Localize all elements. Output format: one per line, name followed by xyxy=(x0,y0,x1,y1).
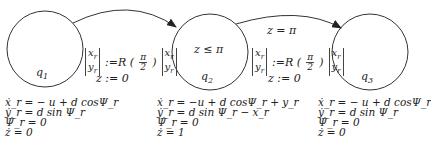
state-q3-flow: ẋ_r = − u + d cosΨ_r ẏ_r = d sin Ψ_r Ψ̇_… xyxy=(318,97,431,137)
state-q1-label: q1 xyxy=(36,66,48,81)
reset-vector-right: xr yr xyxy=(329,48,344,76)
pi-over-2: π 2 xyxy=(139,53,147,72)
flow-eq: ż = 1 xyxy=(157,127,299,137)
flow-eq: ż = 0 xyxy=(5,127,118,137)
state-q2-invariant: z ≤ π xyxy=(194,43,223,56)
state-q1-flow: ẋ_r = − u + d cosΨ_r ẏ_r = d sin Ψ_r Ψ̇_… xyxy=(5,97,118,137)
transition-q1-q2-reset-z: z := 0 xyxy=(96,72,129,85)
state-q3-label: q3 xyxy=(361,70,373,85)
reset-vector-right: xr yr xyxy=(162,48,177,76)
pi-over-2: π 2 xyxy=(306,53,314,72)
transition-q2-q3-reset-z: z := 0 xyxy=(268,72,301,85)
state-q2-flow: ẋ_r = −u + d cosΨ_r + y_r ẏ_r = d sin Ψ_… xyxy=(157,97,299,137)
state-q2-label: q2 xyxy=(201,70,213,85)
transition-q2-q3-guard: z = π xyxy=(267,24,296,37)
transition-q1-q2-arrow[interactable] xyxy=(73,10,176,27)
reset-vector-left: xr yr xyxy=(252,48,267,76)
flow-eq: ż = 0 xyxy=(318,127,431,137)
